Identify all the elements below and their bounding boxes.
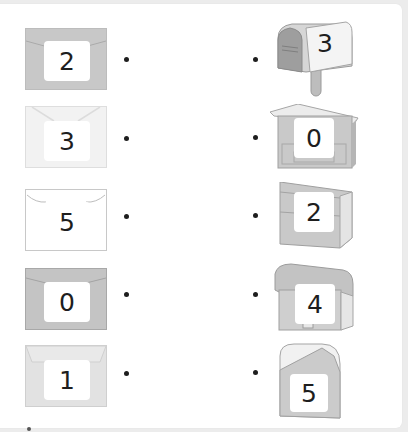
envelope-label: 1	[44, 360, 90, 400]
envelope-1[interactable]: 1	[25, 345, 107, 407]
mailbox-label: 2	[294, 192, 334, 232]
match-dot-left-4[interactable]	[124, 292, 129, 297]
envelope-2[interactable]: 2	[25, 28, 107, 90]
mailbox-number: 5	[290, 381, 328, 406]
mailbox-number: 4	[295, 292, 335, 317]
envelope-number: 1	[44, 368, 90, 393]
match-dot-left-5[interactable]	[124, 371, 129, 376]
match-dot-left-3[interactable]	[124, 214, 129, 219]
mailbox-label: 4	[295, 284, 335, 324]
envelope-number: 3	[44, 129, 90, 154]
footer-mark	[27, 427, 31, 431]
envelope-0[interactable]: 0	[25, 268, 107, 330]
mailbox-2[interactable]: 2	[276, 182, 356, 250]
match-dot-left-1[interactable]	[124, 57, 129, 62]
envelope-label: 0	[44, 282, 90, 322]
envelope-number: 5	[44, 210, 90, 235]
mailbox-5[interactable]: 5	[278, 342, 344, 422]
mailbox-number: 3	[310, 31, 340, 56]
envelope-label: 2	[44, 41, 90, 81]
match-dot-right-4[interactable]	[253, 292, 258, 297]
match-dot-right-2[interactable]	[253, 135, 258, 140]
mailbox-4[interactable]: 4	[273, 262, 357, 334]
envelope-number: 0	[44, 290, 90, 315]
envelope-5[interactable]: 5	[25, 189, 107, 251]
mailbox-label: 5	[290, 374, 328, 412]
mailbox-label: 3	[310, 26, 340, 60]
mailbox-0[interactable]: 0	[270, 104, 360, 170]
mailbox-number: 2	[294, 200, 334, 225]
mailbox-3[interactable]: 3	[276, 18, 356, 98]
match-dot-right-1[interactable]	[253, 57, 258, 62]
mailbox-number: 0	[294, 126, 334, 151]
mailbox-label: 0	[294, 118, 334, 158]
envelope-label: 3	[44, 121, 90, 161]
match-dot-right-5[interactable]	[253, 370, 258, 375]
match-dot-left-2[interactable]	[124, 136, 129, 141]
envelope-3[interactable]: 3	[25, 106, 107, 168]
envelope-number: 2	[44, 49, 90, 74]
match-dot-right-3[interactable]	[253, 213, 258, 218]
envelope-label: 5	[44, 202, 90, 242]
